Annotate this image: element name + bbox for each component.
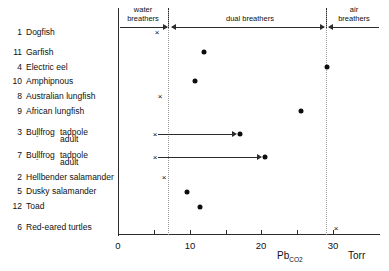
list-item: 4 Electric eel [0, 62, 112, 72]
x-tick-25 [297, 230, 298, 235]
row-name: Bullfrog [26, 127, 55, 137]
row-name: Electric eel [26, 62, 68, 72]
list-item: 10 Amphipnous [0, 76, 112, 86]
row-name: Hellbender salamander [26, 172, 114, 182]
row-number: 1 [0, 27, 22, 37]
list-item: 6 Red-eared turtles [0, 222, 112, 232]
x-axis-line [118, 234, 380, 235]
x-axis-label-pb: Pb [277, 250, 289, 261]
row-name: Red-eared turtles [26, 222, 92, 232]
x-axis-label-subscript: CO2 [289, 256, 302, 263]
list-item: 5 Dusky salamander [0, 186, 112, 196]
data-point-amphipnous [193, 79, 198, 84]
x-tick-label-30: 30 [321, 240, 345, 251]
data-point-electric-eel [325, 65, 330, 70]
data-point-dogfish [155, 30, 160, 35]
row-name: Australian lungfish [26, 91, 95, 101]
row-number: 2 [0, 172, 22, 182]
data-point-bullfrog3-adult [238, 132, 243, 137]
data-point-garfish [202, 50, 207, 55]
x-axis-label: PbCO2 [277, 250, 303, 263]
data-point-bullfrog3-tadpole [153, 132, 158, 137]
row-number: 9 [0, 106, 22, 116]
row-number: 11 [0, 47, 22, 57]
row-transition-dash: - [36, 132, 38, 139]
list-item: 12 Toad [0, 201, 112, 211]
row-number: 10 [0, 76, 22, 86]
list-item: 8 Australian lungfish [0, 91, 112, 101]
x-tick-label-10: 10 [178, 240, 202, 251]
row-name: African lungfish [26, 106, 84, 116]
row-name: Amphipnous [26, 76, 73, 86]
data-point-dusky-salamander [185, 190, 190, 195]
x-tick-0 [118, 230, 119, 235]
x-tick-20 [261, 230, 262, 235]
row-name: Dogfish [26, 27, 55, 37]
x-tick-5 [154, 230, 155, 235]
row-number: 3 [0, 127, 22, 137]
x-axis-unit: Torr [348, 250, 365, 261]
list-item: 11 Garfish [0, 47, 112, 57]
x-tick-10 [190, 230, 191, 235]
transition-arrow-bullfrog3 [158, 131, 237, 138]
zone-boundary-line-7 [168, 10, 169, 235]
data-point-australian-lungfish [158, 94, 163, 99]
plot-area [118, 10, 380, 235]
x-tick-label-20: 20 [249, 240, 273, 251]
transition-arrow-bullfrog7 [158, 154, 262, 161]
row-sublabel-adult: adult [60, 134, 78, 144]
data-point-hellbender-salamander [162, 175, 167, 180]
y-axis-line [118, 10, 119, 235]
arrow-head-right-icon [257, 154, 262, 160]
row-number: 6 [0, 222, 22, 232]
data-point-bullfrog7-adult [263, 155, 268, 160]
figure-root: 1 Dogfish 11 Garfish 4 Electric eel 10 A… [0, 0, 389, 271]
list-item: 7 Bullfrog tadpole adult - [0, 150, 112, 168]
x-tick-15 [226, 230, 227, 235]
row-number: 4 [0, 62, 22, 72]
list-item: 3 Bullfrog tadpole adult - [0, 127, 112, 145]
data-point-toad [198, 205, 203, 210]
data-point-red-eared-turtles [334, 226, 339, 231]
row-name: Bullfrog [26, 150, 55, 160]
row-transition-dash: - [36, 155, 38, 162]
zone-boundary-line-29 [326, 10, 327, 235]
data-point-bullfrog7-tadpole [153, 155, 158, 160]
list-item: 2 Hellbender salamander [0, 172, 112, 182]
list-item: 9 African lungfish [0, 106, 112, 116]
row-number: 12 [0, 201, 22, 211]
x-tick-label-0: 0 [106, 240, 130, 251]
transition-arrow-line [158, 157, 257, 158]
row-number: 8 [0, 91, 22, 101]
transition-arrow-line [158, 134, 232, 135]
row-name: Garfish [26, 47, 53, 57]
row-number: 5 [0, 186, 22, 196]
row-sublabel-adult: adult [60, 157, 78, 167]
arrow-head-right-icon [232, 131, 237, 137]
list-item: 1 Dogfish [0, 27, 112, 37]
row-name: Toad [26, 201, 44, 211]
row-number: 7 [0, 150, 22, 160]
row-name: Dusky salamander [26, 186, 96, 196]
data-point-african-lungfish [299, 109, 304, 114]
